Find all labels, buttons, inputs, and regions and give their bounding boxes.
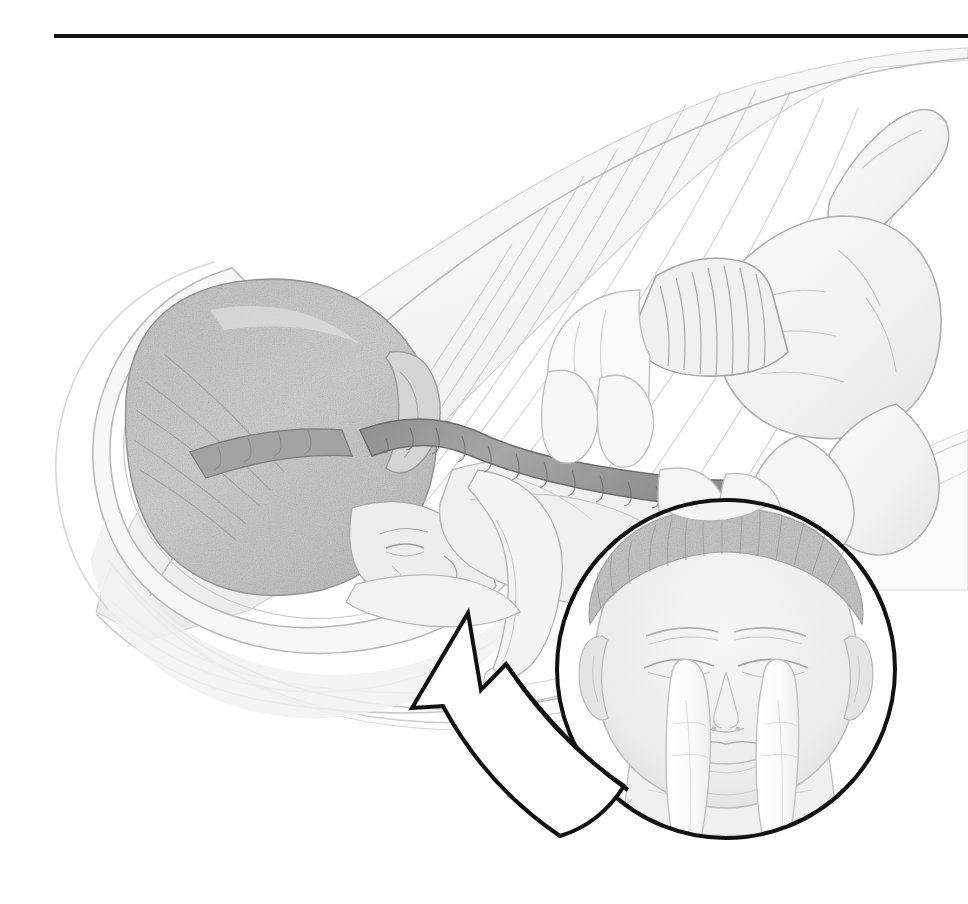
glove-cuff bbox=[635, 258, 788, 376]
medical-illustration-canvas bbox=[0, 0, 968, 904]
illustration-page: newborn head delivered onto surgical dra… bbox=[0, 0, 968, 904]
